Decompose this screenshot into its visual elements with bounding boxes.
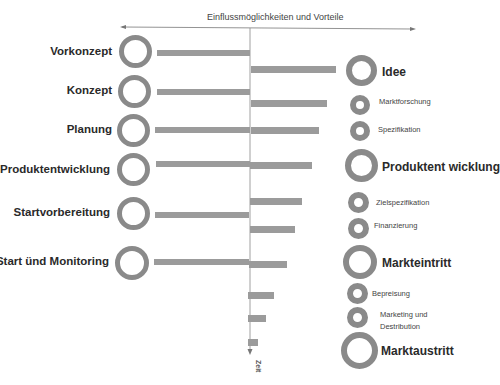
left-bar	[157, 89, 250, 95]
ring-icon	[117, 153, 150, 186]
right-phase-label: Marketing und	[380, 309, 428, 321]
left-bar	[155, 127, 250, 133]
ring-icon	[117, 197, 150, 230]
right-bar	[251, 66, 336, 73]
right-bar	[250, 198, 302, 205]
right-bar	[250, 226, 295, 233]
left-phase-label: Vorkonzept	[50, 45, 112, 57]
left-bar	[156, 161, 250, 167]
left-phase-label: Startvorbereitung	[14, 206, 111, 218]
right-bar	[248, 292, 274, 299]
right-bar	[248, 315, 266, 322]
right-phase-label: Finanzierung	[374, 220, 417, 232]
left-phase-label: Produktentwicklung	[0, 163, 110, 175]
ring-icon	[345, 149, 378, 182]
horizontal-axis-title: Einflussmöglichkeiten und Vorteile	[207, 12, 344, 22]
right-phase-label: Produktent wicklung	[382, 160, 500, 174]
right-phase-label: Markteintritt	[382, 256, 451, 270]
right-phase-label-line2: Destribution	[380, 321, 420, 333]
ring-icon	[347, 283, 368, 304]
right-phase-label: Zielspezifikation	[376, 197, 429, 209]
left-phase-label: Konzept	[67, 84, 112, 96]
ring-icon	[346, 55, 377, 86]
left-bar	[157, 50, 250, 56]
right-bar	[248, 339, 258, 346]
left-bar	[154, 259, 249, 265]
right-bar	[251, 100, 327, 107]
ring-icon	[115, 246, 149, 280]
ring-icon	[117, 114, 150, 147]
ring-icon	[119, 35, 152, 68]
right-phase-label: Bepreisung	[372, 288, 410, 300]
ring-icon	[343, 245, 377, 279]
ring-icon	[347, 307, 368, 328]
ring-icon	[118, 75, 151, 108]
right-bar	[251, 127, 319, 134]
time-axis-label: Zeit	[255, 360, 262, 372]
left-phase-label: Start ünd Monitoring	[0, 255, 109, 267]
ring-icon	[348, 192, 369, 213]
ring-icon	[341, 332, 378, 369]
left-phase-label: Planung	[67, 123, 112, 135]
right-bar	[249, 261, 287, 268]
right-phase-label: Spezifikation	[378, 124, 421, 136]
ring-icon	[350, 95, 370, 115]
ring-icon	[348, 218, 369, 239]
ring-icon	[350, 121, 370, 141]
right-phase-label: Marktaustritt	[381, 344, 454, 358]
right-phase-label: Marktforschung	[379, 96, 431, 108]
left-bar	[155, 212, 249, 218]
right-bar	[250, 162, 312, 169]
right-phase-label: Idee	[382, 65, 406, 79]
